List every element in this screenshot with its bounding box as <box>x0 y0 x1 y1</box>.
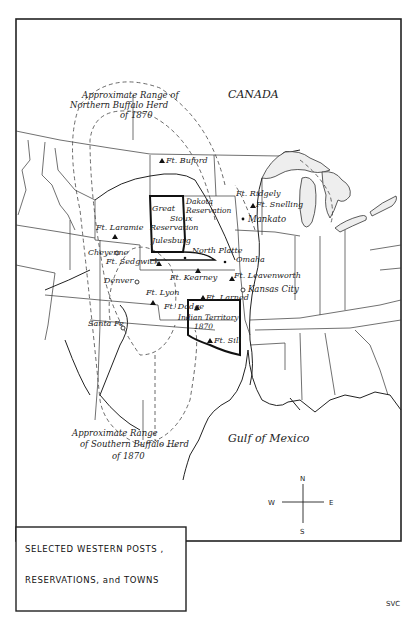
town-santa-fe: Santa Fe <box>88 319 125 330</box>
compass-s: S <box>300 528 305 536</box>
great-sioux-line3: Reservation <box>149 223 198 232</box>
fort-leavenworth: Ft. Leavenworth <box>229 271 301 281</box>
svg-text:Julesburg: Julesburg <box>150 236 191 245</box>
gulf-coast <box>183 350 401 480</box>
canada-label: CANADA <box>228 88 279 101</box>
town-denver: Denver <box>103 276 139 285</box>
town-dot-icon <box>184 257 187 260</box>
compass-n: N <box>300 475 305 483</box>
town-dot-icon <box>242 218 245 221</box>
svg-text:Denver: Denver <box>103 276 135 285</box>
town-cheyenne: Cheyenne <box>88 248 129 257</box>
fort-sill: Ft. Sill <box>207 336 241 345</box>
svg-text:Ft. Laramie: Ft. Laramie <box>95 223 144 232</box>
compass-w: W <box>268 499 275 507</box>
dakota-line1: Dakota <box>185 197 213 206</box>
title-line1: SELECTED WESTERN POSTS , <box>25 544 164 554</box>
svg-text:Ft. Ridgely: Ft. Ridgely <box>235 189 281 198</box>
fort-laramie: Ft. Laramie <box>95 223 144 239</box>
town-circle-icon <box>241 288 245 292</box>
dakota-line2: Reservation <box>185 206 232 215</box>
compass-rose: N S E W <box>268 475 333 536</box>
southern-range-line2: of Southern Buffalo Herd <box>80 439 189 449</box>
title-line2: RESERVATIONS, and TOWNS <box>25 575 159 585</box>
town-mankato: Mankato <box>242 214 286 224</box>
fort-larned: Ft. Larned <box>200 293 249 302</box>
gulf-label: Gulf of Mexico <box>228 432 310 445</box>
northern-range-line2: Northern Buffalo Herd <box>69 100 169 110</box>
fort-ridgely: Ft. Ridgely <box>235 189 281 198</box>
fort-icon <box>159 158 165 163</box>
svg-text:Ft. Sedgwick: Ft. Sedgwick <box>105 257 159 266</box>
svg-text:Ft. Larned: Ft. Larned <box>205 293 249 302</box>
svg-text:Kansas City: Kansas City <box>247 284 299 294</box>
signature: SVC <box>386 600 400 608</box>
compass-e: E <box>329 499 333 507</box>
fort-snelling: Ft. Snelling <box>250 200 303 209</box>
svg-text:Omaha: Omaha <box>236 255 265 264</box>
indian-territory-line2: 1870 <box>194 322 213 331</box>
svg-text:Ft. Sill: Ft. Sill <box>213 336 241 345</box>
svg-text:Ft. Leavenworth: Ft. Leavenworth <box>233 271 301 280</box>
town-circle-icon <box>135 280 139 284</box>
indian-territory-line1: Indian Territory <box>177 313 239 322</box>
svg-text:Ft. Snelling: Ft. Snelling <box>255 200 303 209</box>
great-sioux-line1: Great <box>152 204 176 213</box>
town-julesburg: Julesburg <box>150 236 191 245</box>
town-kansas-city: Kansas City <box>241 284 299 294</box>
fort-icon <box>112 234 118 239</box>
fort-dodge: Ft. Dodge <box>163 302 204 311</box>
fort-icon <box>207 338 213 343</box>
northern-range-line3: of 1870 <box>120 110 153 120</box>
svg-text:Ft. Kearney: Ft. Kearney <box>169 273 218 282</box>
fort-buford: Ft. Buford <box>159 156 208 165</box>
town-omaha: Omaha <box>224 255 265 264</box>
town-dot-icon <box>224 261 227 264</box>
great-sioux-line2: Sioux <box>170 214 193 223</box>
fort-icon <box>150 300 156 305</box>
northern-range-line1: Approximate Range of <box>81 90 180 100</box>
svg-text:Mankato: Mankato <box>247 214 286 224</box>
historical-map: CANADA Gulf of Mexico Approximate Range … <box>0 0 412 621</box>
svg-text:Ft. Dodge: Ft. Dodge <box>163 302 204 311</box>
southern-range-line3: of 1870 <box>112 451 145 461</box>
svg-text:North Platte: North Platte <box>191 246 243 255</box>
fort-sedgwick: Ft. Sedgwick <box>105 257 162 266</box>
svg-text:Ft. Buford: Ft. Buford <box>165 156 208 165</box>
svg-text:Ft. Lyon: Ft. Lyon <box>145 288 180 297</box>
svg-text:Cheyenne: Cheyenne <box>88 248 129 257</box>
svg-text:Santa Fe: Santa Fe <box>88 319 124 328</box>
southern-range-line1: Approximate Range <box>71 428 158 438</box>
title-box <box>16 527 186 611</box>
